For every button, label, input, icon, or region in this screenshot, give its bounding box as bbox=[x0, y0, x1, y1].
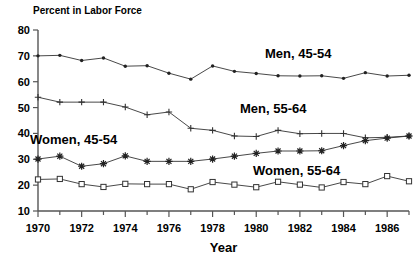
y-axis-title: Percent in Labor Force bbox=[33, 5, 142, 16]
data-point-marker bbox=[144, 112, 150, 118]
data-point-marker bbox=[275, 127, 281, 133]
data-point-marker bbox=[385, 74, 388, 77]
data-point-marker bbox=[209, 127, 215, 133]
data-point-marker bbox=[57, 176, 62, 181]
data-point-marker bbox=[407, 74, 410, 77]
y-tick-label: 40 bbox=[18, 127, 30, 139]
data-point-marker bbox=[233, 70, 236, 73]
data-point-marker bbox=[78, 163, 85, 170]
data-point-marker bbox=[255, 72, 258, 75]
data-point-marker bbox=[340, 142, 347, 149]
data-point-marker bbox=[340, 130, 346, 136]
x-axis-title: Year bbox=[210, 240, 237, 255]
data-point-marker bbox=[78, 99, 84, 105]
data-point-marker bbox=[319, 185, 324, 190]
data-point-marker bbox=[253, 133, 259, 139]
series-women-55-64 bbox=[35, 173, 411, 191]
data-point-marker bbox=[35, 177, 40, 182]
data-point-marker bbox=[80, 59, 83, 62]
data-point-marker bbox=[100, 99, 106, 105]
data-point-marker bbox=[342, 77, 345, 80]
y-tick-label: 20 bbox=[18, 179, 30, 191]
data-point-marker bbox=[145, 182, 150, 187]
data-point-marker bbox=[276, 74, 279, 77]
y-tick-label: 80 bbox=[18, 24, 30, 36]
series-annotation: Women, 55-64 bbox=[253, 163, 341, 178]
data-point-marker bbox=[274, 147, 281, 154]
data-point-marker bbox=[58, 54, 61, 57]
data-point-marker bbox=[231, 153, 238, 160]
series-annotation: Men, 55-64 bbox=[240, 101, 307, 116]
data-point-marker bbox=[385, 173, 390, 178]
data-point-marker bbox=[275, 179, 280, 184]
x-tick-label: 1970 bbox=[26, 222, 50, 234]
data-point-marker bbox=[165, 158, 172, 165]
data-point-marker bbox=[145, 64, 148, 67]
data-point-marker bbox=[100, 160, 107, 167]
data-point-marker bbox=[101, 184, 106, 189]
data-point-marker bbox=[166, 182, 171, 187]
data-point-marker bbox=[122, 152, 129, 159]
data-point-marker bbox=[189, 77, 192, 80]
data-point-marker bbox=[211, 64, 214, 67]
labor-force-line-chart: Percent in Labor Force102030405060708019… bbox=[0, 0, 416, 263]
series-annotation: Women, 45-54 bbox=[30, 132, 118, 147]
x-tick-label: 1972 bbox=[69, 222, 93, 234]
series-line bbox=[38, 55, 409, 79]
data-point-marker bbox=[406, 179, 411, 184]
data-point-marker bbox=[188, 125, 194, 131]
x-tick-label: 1986 bbox=[375, 222, 399, 234]
y-tick-label: 50 bbox=[18, 102, 30, 114]
data-point-marker bbox=[166, 109, 172, 115]
data-point-marker bbox=[35, 94, 41, 100]
x-tick-label: 1980 bbox=[244, 222, 268, 234]
data-point-marker bbox=[253, 150, 260, 157]
data-point-marker bbox=[187, 158, 194, 165]
data-point-marker bbox=[319, 130, 325, 136]
x-tick-label: 1978 bbox=[200, 222, 224, 234]
y-tick-label: 10 bbox=[18, 205, 30, 217]
data-point-marker bbox=[167, 71, 170, 74]
data-point-marker bbox=[79, 182, 84, 187]
series-men-45-54 bbox=[36, 54, 410, 81]
data-point-marker bbox=[124, 65, 127, 68]
data-point-marker bbox=[297, 182, 302, 187]
x-tick-label: 1984 bbox=[331, 222, 356, 234]
series-annotation: Men, 45-54 bbox=[265, 46, 332, 61]
data-point-marker bbox=[384, 134, 391, 141]
data-point-marker bbox=[405, 132, 412, 139]
data-point-marker bbox=[362, 137, 369, 144]
data-point-marker bbox=[297, 130, 303, 136]
data-point-marker bbox=[341, 179, 346, 184]
y-tick-label: 60 bbox=[18, 76, 30, 88]
data-point-marker bbox=[254, 185, 259, 190]
chart-figure: Percent in Labor Force102030405060708019… bbox=[0, 0, 416, 263]
data-point-marker bbox=[34, 155, 41, 162]
data-point-marker bbox=[122, 104, 128, 110]
x-tick-label: 1982 bbox=[288, 222, 312, 234]
x-tick-label: 1974 bbox=[113, 222, 138, 234]
data-point-marker bbox=[298, 74, 301, 77]
series-line bbox=[38, 176, 409, 189]
data-point-marker bbox=[210, 179, 215, 184]
data-point-marker bbox=[36, 54, 39, 57]
data-point-marker bbox=[144, 158, 151, 165]
data-point-marker bbox=[56, 153, 63, 160]
y-tick-label: 30 bbox=[18, 153, 30, 165]
data-point-marker bbox=[296, 147, 303, 154]
y-tick-label: 70 bbox=[18, 50, 30, 62]
x-tick-label: 1976 bbox=[157, 222, 181, 234]
data-point-marker bbox=[364, 71, 367, 74]
data-point-marker bbox=[231, 133, 237, 139]
data-point-marker bbox=[363, 182, 368, 187]
data-point-marker bbox=[123, 181, 128, 186]
data-point-marker bbox=[102, 56, 105, 59]
data-point-marker bbox=[232, 182, 237, 187]
data-point-marker bbox=[320, 74, 323, 77]
data-point-marker bbox=[318, 147, 325, 154]
data-point-marker bbox=[188, 187, 193, 192]
data-point-marker bbox=[57, 99, 63, 105]
data-point-marker bbox=[209, 155, 216, 162]
